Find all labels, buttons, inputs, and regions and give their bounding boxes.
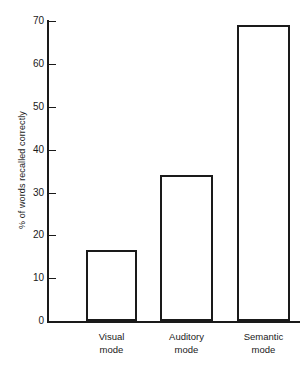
y-axis-tick bbox=[49, 193, 56, 194]
y-axis-tick-label: 0 bbox=[12, 316, 44, 326]
x-axis-label: Semanticmode bbox=[223, 330, 304, 356]
bar-chart: % of words recalled correctly 0102030405… bbox=[0, 0, 307, 375]
y-axis-tick-label-text: 30 bbox=[16, 188, 44, 198]
y-axis-tick bbox=[49, 21, 56, 22]
y-axis-tick bbox=[49, 150, 56, 151]
y-axis-tick-label-text: 20 bbox=[16, 230, 44, 240]
y-axis-tick-label-text: 10 bbox=[16, 273, 44, 283]
y-axis-tick-label-text: 50 bbox=[16, 102, 44, 112]
y-axis-tick-label: 40 bbox=[12, 145, 44, 155]
x-axis-label-line: Visual bbox=[72, 330, 151, 343]
x-axis-label-line: Semantic bbox=[223, 330, 304, 343]
bar bbox=[237, 25, 290, 321]
x-axis-label: Auditorymode bbox=[146, 330, 227, 356]
x-axis-label-line: mode bbox=[72, 343, 151, 356]
y-axis-tick-label: 20 bbox=[12, 230, 44, 240]
y-axis-tick bbox=[49, 107, 56, 108]
y-axis-tick bbox=[49, 235, 56, 236]
x-axis-label: Visualmode bbox=[72, 330, 151, 356]
y-axis-tick bbox=[49, 64, 56, 65]
y-axis-tick bbox=[49, 321, 56, 322]
y-axis-tick-label-text: 70 bbox=[16, 16, 44, 26]
y-axis-tick bbox=[49, 278, 56, 279]
y-axis-tick-label-text: 40 bbox=[16, 145, 44, 155]
x-axis-line bbox=[47, 321, 300, 323]
y-axis-tick-label: 10 bbox=[12, 273, 44, 283]
bar bbox=[160, 175, 213, 321]
y-axis-tick-label: 50 bbox=[12, 102, 44, 112]
y-axis-tick-label-text: 60 bbox=[16, 59, 44, 69]
y-axis-tick-label: 60 bbox=[12, 59, 44, 69]
y-axis-tick-label: 30 bbox=[12, 188, 44, 198]
x-axis-label-line: mode bbox=[146, 343, 227, 356]
x-axis-label-line: mode bbox=[223, 343, 304, 356]
y-axis-tick-label: 70 bbox=[12, 16, 44, 26]
bar bbox=[86, 250, 137, 321]
x-axis-label-line: Auditory bbox=[146, 330, 227, 343]
y-axis-tick-label-text: 0 bbox=[16, 316, 44, 326]
